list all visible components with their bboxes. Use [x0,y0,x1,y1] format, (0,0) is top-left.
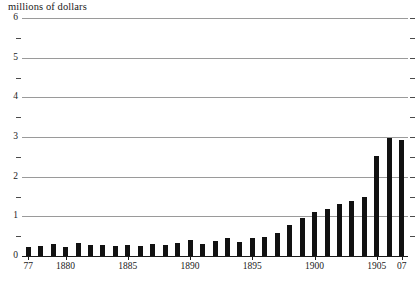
y-axis-minor-tick [16,236,21,237]
bar [188,240,193,256]
bar [237,242,242,256]
bar [337,204,342,256]
y-axis-tick-label: 6 [13,13,18,23]
bar [51,244,56,256]
y-axis-tick-label: 3 [13,132,18,142]
bar [374,156,379,256]
y-axis-major-tick [410,97,415,98]
y-axis-major-tick [410,58,415,59]
x-axis-tick-label: 1890 [181,261,200,272]
bar [175,243,180,256]
bar [275,233,280,256]
y-axis-major-tick [410,18,415,19]
y-axis-minor-tick [16,78,21,79]
y-axis-major-tick [410,216,415,217]
y-axis-major-tick [410,137,415,138]
bar [213,241,218,256]
bar [163,245,168,257]
y-axis-minor-tick [410,117,415,118]
y-axis-minor-tick [16,38,21,39]
x-axis-tick-label: 1900 [305,261,324,272]
y-axis-tick-label: 0 [13,251,18,261]
y-axis-tick-label: 1 [13,212,18,222]
x-axis-tick [315,256,316,260]
bar [113,246,118,256]
y-axis-tick-label: 4 [13,93,18,103]
bar [250,238,255,256]
bar [312,212,317,256]
y-axis-minor-tick [410,236,415,237]
bar [76,243,81,256]
x-axis-tick [128,256,129,260]
bar [200,244,205,256]
y-axis-minor-tick [410,157,415,158]
bar [399,140,404,256]
x-axis-tick-label: 77 [23,261,33,272]
y-axis-minor-tick [410,38,415,39]
bar [225,238,230,256]
y-axis-minor-tick [410,78,415,79]
x-axis-tick-label: 1905 [367,261,386,272]
bar-series [22,18,408,256]
bar [63,247,68,256]
bar [287,225,292,256]
y-axis-minor-tick [16,157,21,158]
x-axis-tick [377,256,378,260]
x-axis-tick [66,256,67,260]
x-axis-tick-label: 1880 [56,261,75,272]
x-axis: 7718801885189018951900190507 [22,256,408,286]
x-axis-tick [190,256,191,260]
bar [362,197,367,257]
bar [325,209,330,256]
y-axis-title: millions of dollars [8,1,87,13]
x-axis-tick [252,256,253,260]
bar [150,244,155,256]
y-axis-minor-tick [16,197,21,198]
bar-chart: millions of dollars 0123456 771880188518… [0,0,419,290]
y-axis-major-tick [410,177,415,178]
bar [38,246,43,256]
bar [26,247,31,256]
bar [262,237,267,256]
x-axis-tick-label: 1895 [243,261,262,272]
bar [300,218,305,256]
x-axis-tick [28,256,29,260]
bar [349,201,354,256]
bar [138,246,143,256]
x-axis-tick-label: 1885 [118,261,137,272]
y-axis-minor-tick [16,117,21,118]
plot-area: 0123456 [22,18,408,256]
x-axis-tick [402,256,403,260]
bar [387,138,392,256]
x-axis-tick-label: 07 [397,261,407,272]
bar [100,245,105,256]
y-axis-minor-tick [410,197,415,198]
bar [88,245,93,256]
bar [125,245,130,256]
y-axis-tick-label: 5 [13,53,18,63]
y-axis-tick-label: 2 [13,172,18,182]
